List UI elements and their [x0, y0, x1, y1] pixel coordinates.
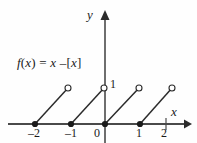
- branch-segment-minus2: [35, 88, 68, 124]
- formula-bracket-close: ]: [77, 55, 82, 70]
- open-endpoints: [65, 85, 175, 91]
- open-point-zero: [101, 85, 107, 91]
- y-tick-label-1: 1: [110, 78, 116, 90]
- branch-segment-one: [140, 88, 172, 124]
- graph-canvas: [0, 0, 197, 143]
- open-point-two: [169, 85, 175, 91]
- function-graph-figure: f(x) = x –[x] y x 1 –2 –1 0 1 2: [0, 0, 197, 143]
- closed-point-zero: [102, 121, 108, 127]
- open-point-one: [136, 85, 142, 91]
- function-formula-label: f(x) = x –[x]: [17, 56, 81, 69]
- x-axis-arrowhead: [184, 120, 192, 129]
- sawtooth-branches: [35, 88, 172, 124]
- open-point-minus1: [65, 85, 71, 91]
- x-tick-label-one: 1: [136, 127, 142, 139]
- x-tick-label-minus2: –2: [28, 127, 40, 139]
- formula-minus-sign: –: [56, 55, 66, 70]
- x-axis-label: x: [171, 105, 177, 118]
- x-tick-label-minus1: –1: [65, 127, 77, 139]
- y-axis-arrowhead: [101, 10, 110, 20]
- y-axis-label: y: [87, 8, 93, 21]
- x-tick-label-two: 2: [161, 127, 167, 139]
- formula-equals: =: [36, 55, 50, 70]
- branch-segment-zero: [105, 88, 139, 124]
- x-tick-label-zero: 0: [94, 127, 100, 139]
- branch-segment-minus1: [71, 88, 104, 124]
